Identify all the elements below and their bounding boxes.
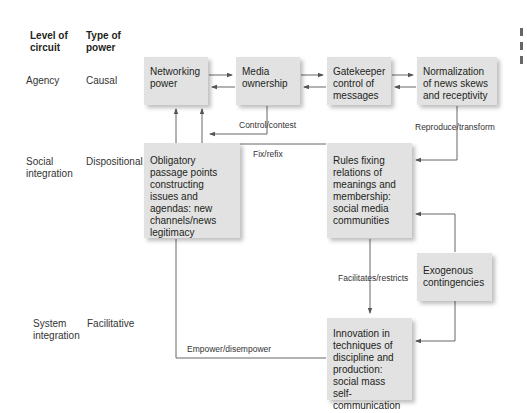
node-networking-power: Networking power xyxy=(144,57,208,105)
node-gatekeeper-control: Gatekeeper control of messages xyxy=(327,57,391,105)
node-innovation: Innovation in techniques of discipline a… xyxy=(327,318,412,400)
node-rules-fixing: Rules fixing relations of meanings and m… xyxy=(327,143,412,238)
row-power-causal: Causal xyxy=(86,75,117,87)
row-level-system-integration: System integration xyxy=(33,318,83,342)
node-exogenous-contingencies: Exogenous contingencies xyxy=(417,253,492,301)
cutoff-margin-text xyxy=(520,28,527,64)
row-level-agency: Agency xyxy=(26,75,59,87)
edge-label-fix-refix: Fix/refix xyxy=(253,149,283,159)
row-power-facilitative: Facilitative xyxy=(87,318,134,330)
header-level-of-circuit: Level of circuit xyxy=(30,30,80,54)
edge-label-reproduce-transform: Reproduce/transform xyxy=(415,122,495,132)
row-power-dispositional: Dispositional xyxy=(86,156,143,168)
row-level-social-integration: Social integration xyxy=(26,156,76,180)
edge-label-empower-disempower: Empower/disempower xyxy=(187,344,271,354)
node-media-ownership: Media ownership xyxy=(236,57,300,105)
edge-label-control-contest: Control/contest xyxy=(239,120,296,130)
edge-label-facilitates-restricts: Facilitates/restricts xyxy=(338,273,408,283)
header-type-of-power: Type of power xyxy=(86,30,126,54)
node-normalization: Normalization of news skews and receptiv… xyxy=(417,57,497,105)
node-obligatory-passage: Obligatory passage points constructing i… xyxy=(144,143,240,238)
